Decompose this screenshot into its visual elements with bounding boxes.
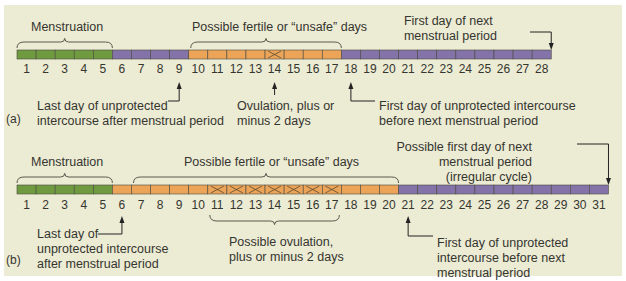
panel-b-last-day-label: Last day of unprotected intercourse afte… [37, 227, 168, 272]
panel-a-day-23-cell [437, 50, 456, 59]
panel-a-day-6-cell [112, 50, 131, 59]
panel-a-fertile-label: Possible fertile or “unsafe” days [192, 20, 367, 35]
panel-a-day-27-number: 27 [513, 62, 532, 76]
panel-b-day-22-cell [418, 185, 437, 194]
panel-a-day-9-cell [170, 50, 189, 59]
panel-a-ovulation-label: Ovulation, plus or minus 2 days [237, 99, 334, 129]
panel-a-day-11-number: 11 [208, 62, 227, 76]
panel-a-day-21-cell [399, 50, 418, 59]
panel-a-day-12-number: 12 [227, 62, 246, 76]
panel-a-day-20-cell [380, 50, 399, 59]
panel-b-day-25-number: 25 [475, 198, 494, 212]
panel-b-day-2-number: 2 [36, 198, 55, 212]
panel-b-day-20-cell [380, 185, 399, 194]
panel-b-next-period-line3: (irregular cycle) [397, 170, 532, 185]
panel-a-first-day-arrow-head [348, 82, 353, 89]
panel-a-next-period-label: First day of next menstrual period [404, 14, 497, 44]
panel-b-ovulation-brace [210, 215, 340, 225]
panel-b-day-30-cell [570, 185, 589, 194]
panel-b-day-16-number: 16 [303, 198, 322, 212]
panel-a-last-day-line2: intercourse after menstrual period [37, 114, 224, 129]
panel-a-day-8-number: 8 [151, 62, 170, 76]
panel-a-next-period-line1: First day of next [404, 14, 497, 29]
panel-a-day-10-cell [189, 50, 208, 59]
panel-b-day-25-cell [475, 185, 494, 194]
panel-a-day-16-number: 16 [303, 62, 322, 76]
panel-b-day-6-cell [112, 185, 131, 194]
panel-b-last-day-arrow-head [119, 216, 124, 223]
panel-b-day-18-number: 18 [341, 198, 360, 212]
panel-b-first-day-arrow-head [406, 216, 411, 223]
panel-b-menstruation-label: Menstruation [31, 155, 103, 170]
panel-b-label: (b) [6, 253, 21, 268]
panel-a-day-1-number: 1 [17, 62, 36, 76]
panel-a-first-day-arrow-line [351, 88, 375, 101]
panel-a-day-18-number: 18 [341, 62, 360, 76]
panel-b-day-31-number: 31 [589, 198, 608, 212]
panel-a-ovulation-arrow-head [272, 82, 277, 89]
panel-a-day-5-number: 5 [93, 62, 112, 76]
panel-b-day-9-cell [170, 185, 189, 194]
panel-b-day-4-cell [74, 185, 93, 194]
panel-b-day-10-number: 10 [189, 198, 208, 212]
panel-a-menstruation-brace [17, 38, 112, 48]
panel-b-day-4-number: 4 [74, 198, 93, 212]
panel-a-day-27-cell [513, 50, 532, 59]
panel-a-day-19-number: 19 [360, 62, 379, 76]
panel-b-fertile-label: Possible fertile or “unsafe” days [184, 155, 359, 170]
panel-b-next-period-label: Possible first day of next menstrual per… [397, 140, 532, 185]
panel-a-day-1-cell [17, 50, 36, 59]
panel-b-day-8-number: 8 [151, 198, 170, 212]
panel-a-day-28-cell [532, 50, 551, 59]
panel-b-day-1-number: 1 [17, 198, 36, 212]
panel-a-day-10-number: 10 [189, 62, 208, 76]
panel-b-day-31-cell [589, 185, 608, 194]
panel-b-day-28-number: 28 [532, 198, 551, 212]
panel-a-first-day-line2: before next menstrual period [379, 114, 576, 129]
panel-b-day-11-number: 11 [208, 198, 227, 212]
panel-b-day-23-cell [437, 185, 456, 194]
panel-b-last-day-line1: Last day of [37, 227, 168, 242]
panel-b-day-13-number: 13 [246, 198, 265, 212]
panel-b-day-29-number: 29 [551, 198, 570, 212]
panel-b-day-26-cell [494, 185, 513, 194]
panel-b-day-24-number: 24 [456, 198, 475, 212]
panel-a-day-22-cell [418, 50, 437, 59]
panel-a-next-period-arrow-head [549, 43, 554, 50]
panel-b-first-day-line2: intercourse before next [437, 251, 568, 266]
panel-a-menstruation-label: Menstruation [31, 20, 103, 35]
panel-a-first-day-label: First day of unprotected intercourse bef… [379, 99, 576, 129]
panel-b-next-period-arrow-line [577, 144, 608, 179]
panel-a-day-26-cell [494, 50, 513, 59]
panel-a-last-day-label: Last day of unprotected intercourse afte… [37, 99, 224, 129]
panel-b-day-19-cell [360, 185, 379, 194]
panel-b-day-22-number: 22 [418, 198, 437, 212]
panel-b-day-8-cell [151, 185, 170, 194]
panel-b-ovulation-label: Possible ovulation, plus or minus 2 days [229, 235, 344, 265]
panel-b-day-3-cell [55, 185, 74, 194]
panel-a-day-17-cell [322, 50, 341, 59]
panel-a-day-17-number: 17 [322, 62, 341, 76]
panel-a-day-15-number: 15 [284, 62, 303, 76]
panel-a-day-6-number: 6 [112, 62, 131, 76]
panel-b-day-26-number: 26 [494, 198, 513, 212]
panel-a-day-13-cell [246, 50, 265, 59]
panel-b-day-15-number: 15 [284, 198, 303, 212]
panel-a-fertile-brace [191, 38, 342, 48]
panel-a-ovulation-line1: Ovulation, plus or [237, 99, 334, 114]
panel-a-day-13-number: 13 [246, 62, 265, 76]
panel-a-last-day-line1: Last day of unprotected [37, 99, 224, 114]
panel-b-menstruation-brace [17, 173, 112, 183]
panel-a-day-8-cell [151, 50, 170, 59]
panel-a-day-20-number: 20 [380, 62, 399, 76]
fertility-calendar-diagram: Menstruation Possible fertile or “unsafe… [4, 5, 622, 276]
panel-a-last-day-arrow-head [177, 82, 182, 89]
panel-b-first-day-line1: First day of unprotected [437, 236, 568, 251]
panel-a-first-day-line1: First day of unprotected intercourse [379, 99, 576, 114]
panel-b-day-20-number: 20 [380, 198, 399, 212]
panel-a-day-7-number: 7 [131, 62, 150, 76]
panel-b-ovulation-line1: Possible ovulation, [229, 235, 344, 250]
panel-a-day-16-cell [303, 50, 322, 59]
panel-a-day-18-cell [341, 50, 360, 59]
panel-b-day-19-number: 19 [360, 198, 379, 212]
